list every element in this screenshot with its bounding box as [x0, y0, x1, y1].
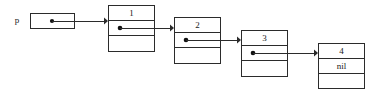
arrow-head-icon: [170, 25, 174, 32]
pointer-variable-label: p: [15, 15, 20, 25]
arrow-head-icon: [237, 37, 241, 44]
linked-list-diagram: p 1 2: [0, 0, 380, 94]
node-4-nil-label: nil: [337, 61, 347, 71]
node-2-value: 2: [195, 20, 200, 30]
node-3-value: 3: [262, 33, 267, 43]
arrow-head-icon: [314, 50, 318, 57]
node-1-value: 1: [129, 8, 134, 18]
node-4-value: 4: [339, 46, 344, 56]
arrow-head-icon: [104, 18, 108, 25]
diagram-canvas: p 1 2: [0, 0, 380, 94]
node-4: 4 nil: [319, 44, 365, 89]
